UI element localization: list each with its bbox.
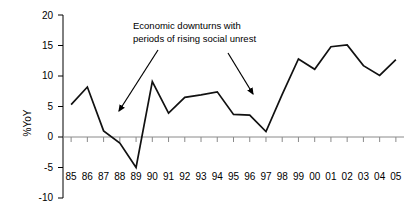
line-chart: %YoY 20 15 10 5 0 -5 -10 8586878889	[0, 0, 413, 224]
x-tick-label-92: 92	[179, 171, 191, 182]
x-tick-label-87: 87	[98, 171, 110, 182]
x-tick-label-03: 03	[358, 171, 370, 182]
y-tick-label-10: 10	[42, 70, 54, 81]
x-tick-label-98: 98	[277, 171, 289, 182]
x-tick-label-91: 91	[163, 171, 175, 182]
x-tick-label-89: 89	[131, 171, 143, 182]
x-tick-label-86: 86	[82, 171, 94, 182]
y-tick-label-neg5: -5	[44, 162, 53, 173]
annotation-arrow-right-icon	[228, 53, 253, 94]
annotation-line-2: periods of rising social unrest	[133, 33, 256, 44]
x-tick-label-90: 90	[147, 171, 159, 182]
x-tick-label-95: 95	[228, 171, 240, 182]
x-axis-tick-labels: 8586878889909192939495969798990001020304…	[66, 171, 402, 182]
y-axis-ticks	[58, 15, 63, 198]
y-tick-label-neg10: -10	[39, 192, 54, 203]
x-tick-label-00: 00	[309, 171, 321, 182]
x-tick-label-01: 01	[325, 171, 337, 182]
x-tick-label-94: 94	[212, 171, 224, 182]
x-tick-label-02: 02	[342, 171, 354, 182]
x-tick-label-04: 04	[374, 171, 386, 182]
annotation-downturns: Economic downturns with periods of risin…	[133, 20, 256, 44]
annotation-line-1: Economic downturns with	[133, 20, 241, 31]
y-tick-label-5: 5	[47, 101, 53, 112]
y-tick-label-0: 0	[47, 131, 53, 142]
y-axis-tick-labels: 20 15 10 5 0 -5 -10	[39, 10, 54, 204]
y-axis-title: %YoY	[22, 109, 33, 136]
x-tick-label-96: 96	[244, 171, 256, 182]
chart-container: %YoY 20 15 10 5 0 -5 -10 8586878889	[0, 0, 413, 224]
x-tick-label-88: 88	[114, 171, 126, 182]
series-line	[71, 45, 396, 168]
x-tick-label-97: 97	[260, 171, 272, 182]
x-tick-label-99: 99	[293, 171, 305, 182]
x-tick-label-85: 85	[66, 171, 78, 182]
x-axis-ticks	[71, 137, 396, 142]
y-tick-label-20: 20	[42, 10, 54, 21]
y-tick-label-15: 15	[42, 40, 54, 51]
x-tick-label-05: 05	[390, 171, 402, 182]
x-tick-label-93: 93	[195, 171, 207, 182]
